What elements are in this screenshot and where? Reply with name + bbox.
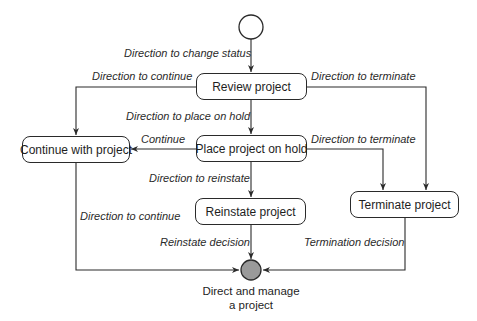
label-reinstate-decision: Reinstate decision	[160, 236, 250, 248]
end-node-icon	[241, 260, 261, 280]
label-direction-to-change-status: Direction to change status	[124, 47, 251, 59]
label-direction-to-continue-bottom: Direction to continue	[80, 210, 180, 222]
label-direction-to-terminate-top: Direction to terminate	[311, 70, 416, 82]
state-continue-with-project: Continue with project	[22, 136, 130, 163]
label-direction-to-place-on-hold: Direction to place on hold	[126, 110, 250, 122]
state-terminate-project: Terminate project	[350, 191, 459, 218]
label-termination-decision: Termination decision	[304, 236, 404, 248]
end-caption: Direct and manage a project	[191, 284, 311, 312]
state-review-project: Review project	[196, 73, 307, 100]
label-direction-to-continue-top: Direction to continue	[92, 70, 192, 82]
label-continue: Continue	[141, 133, 185, 145]
end-caption-line1: Direct and manage	[191, 284, 311, 298]
arrow-hold-to-terminate	[307, 149, 383, 190]
state-reinstate-project: Reinstate project	[195, 198, 306, 225]
end-caption-line2: a project	[191, 298, 311, 312]
label-direction-to-terminate-hold: Direction to terminate	[311, 133, 416, 145]
start-node-icon	[239, 15, 263, 39]
label-direction-to-reinstate: Direction to reinstate	[149, 172, 250, 184]
state-place-on-hold: Place project on hold	[196, 135, 307, 162]
